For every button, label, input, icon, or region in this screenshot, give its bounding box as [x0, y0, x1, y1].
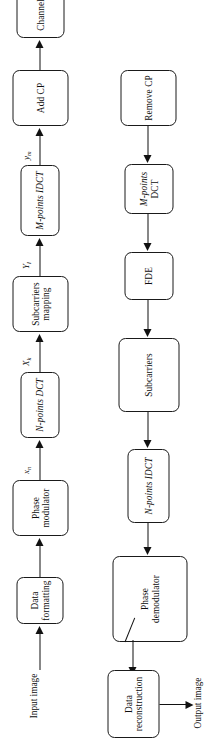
- input-image-label: Input image: [28, 668, 38, 724]
- edge-m-points-idct-to-add-cp: [39, 135, 40, 165]
- edge-phase-modulator-to-n-points-dct: [39, 447, 40, 480]
- block-subcarriers[interactable]: Subcarriers: [118, 338, 179, 412]
- edge-add-cp-to-channel: [39, 47, 40, 70]
- edge-m-points-dct-to-fde: [147, 214, 148, 243]
- output-image-label: Output image: [192, 672, 202, 734]
- block-fde[interactable]: FDE: [124, 252, 173, 300]
- arrowhead-m-points-idct-to-add-cp: [35, 128, 43, 136]
- arrowhead-input-to-data-formatting: [35, 626, 43, 634]
- signal-label-Y-l: Yl: [20, 262, 32, 269]
- arrowhead-n-points-dct-to-subcarriers-mapping: [35, 334, 43, 342]
- signal-label-y-m: ym: [20, 151, 32, 160]
- edge-fde-to-subcarriers: [147, 300, 148, 329]
- arrowhead-remove-cp-to-m-points-dct: [143, 155, 151, 163]
- edge-n-points-dct-to-subcarriers-mapping: [39, 341, 40, 372]
- edge-remove-cp-to-m-points-dct: [147, 126, 148, 155]
- arrowhead-phase-modulator-to-n-points-dct: [35, 440, 43, 448]
- block-data-formatting[interactable]: Data formatting: [16, 577, 63, 624]
- arrowhead-add-cp-to-channel: [35, 40, 43, 48]
- arrowhead-fde-to-subcarriers: [143, 329, 151, 337]
- block-add-cp[interactable]: Add CP: [12, 70, 68, 126]
- edge-n-points-idct-to-phase-demodulator: [147, 523, 148, 547]
- edge-subcarriers-mapping-to-m-points-idct: [39, 245, 40, 276]
- arrowhead-data-formatting-to-phase-modulator: [35, 538, 43, 546]
- block-phase-modulator[interactable]: Phase modulator: [12, 480, 68, 536]
- block-data-reconstruction[interactable]: Data reconstruction: [107, 670, 159, 738]
- block-n-points-idct[interactable]: N-points IDCT: [127, 449, 169, 523]
- arrowhead-n-points-idct-to-phase-demodulator: [143, 547, 151, 555]
- edge-data-reconstruction-to-output: [159, 704, 187, 705]
- edge-data-formatting-to-phase-modulator: [39, 545, 40, 577]
- arrowhead-subcarriers-to-n-points-idct: [143, 440, 151, 448]
- block-m-points-dct[interactable]: M-points DCT: [124, 164, 173, 214]
- block-remove-cp[interactable]: Remove CP: [120, 70, 176, 126]
- signal-label-X-k: Xk: [20, 358, 32, 366]
- signal-label-x-n: xn: [20, 467, 32, 474]
- edge-subcarriers-to-n-points-idct: [147, 412, 148, 440]
- block-n-points-dct[interactable]: N-points DCT: [20, 372, 59, 438]
- block-subcarriers-mapping[interactable]: Subcarriers mapping: [12, 276, 68, 332]
- block-phase-demodulator[interactable]: Phase demodulator: [112, 556, 187, 642]
- block-channel[interactable]: Channel: [16, 0, 64, 38]
- edge-input-to-data-formatting: [39, 633, 40, 670]
- arrowhead-m-points-dct-to-fde: [143, 243, 151, 251]
- arrowhead-subcarriers-mapping-to-m-points-idct: [35, 238, 43, 246]
- block-m-points-idct[interactable]: M-points IDCT: [20, 165, 59, 236]
- edge-phase-demodulator-to-data-reconstruction-h: [132, 640, 133, 670]
